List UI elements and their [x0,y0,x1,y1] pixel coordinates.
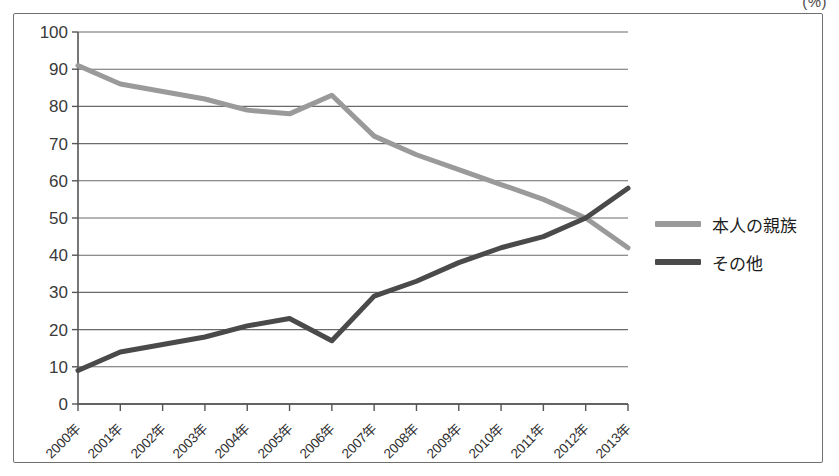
legend-swatch-honnin [655,221,701,227]
y-tick-label: 70 [24,136,68,153]
y-tick-label: 10 [24,359,68,376]
legend-swatch-sonota [655,259,701,265]
legend-label-sonota: その他 [712,250,763,275]
y-tick-label: 20 [24,322,68,339]
y-tick-label: 80 [24,98,68,115]
y-tick-label: 100 [24,24,68,41]
legend-item-sonota: その他 [655,243,825,281]
legend-label-honnin: 本人の親族 [712,212,797,237]
y-tick-label: 60 [24,173,68,190]
series-line-2 [78,188,628,370]
y-tick-label: 0 [24,396,68,413]
y-tick-label: 40 [24,247,68,264]
x-axis-ticks [78,404,628,411]
legend-item-honnin: 本人の親族 [655,205,825,243]
y-tick-label: 30 [24,284,68,301]
y-tick-label: 90 [24,61,68,78]
y-tick-label: 50 [24,210,68,227]
chart-figure: (%) 0102030405060708090100 2000年2001年200… [0,0,839,476]
series-line-1 [78,65,628,247]
chart-legend: 本人の親族 その他 [655,205,825,281]
